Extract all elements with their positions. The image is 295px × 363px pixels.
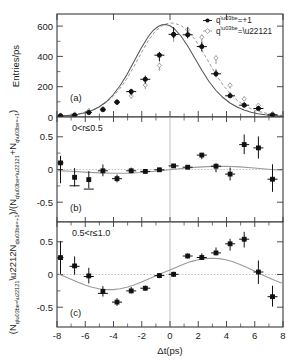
panel-c-ytick-pos: 0.5 — [40, 236, 53, 247]
xtick-2: 2 — [196, 330, 201, 341]
panel-a-ylabel: Entries/ps — [10, 45, 21, 87]
panel-b-tag: (b) — [70, 202, 82, 213]
xtick--8: -8 — [53, 330, 61, 341]
xtick--6: -6 — [81, 330, 89, 341]
panel-c-tag: (c) — [70, 307, 81, 318]
panel-c-ytick-zero: 0 — [48, 269, 53, 280]
xtick-6: 6 — [252, 330, 257, 341]
panel-c-range-label: 0.5<r≤1.0 — [72, 228, 110, 238]
x-axis-title: Δt(ps) — [157, 345, 182, 356]
panel-a-tag: (a) — [70, 92, 82, 103]
panel-b-ytick-zero: 0 — [48, 164, 53, 175]
x-axis-labels: -8 -6 -4 -2 0 2 4 6 8 Δt(ps) — [53, 330, 286, 356]
panel-a-ytick-400: 400 — [37, 51, 53, 62]
panel-b-ytick-pos: 0.5 — [40, 131, 53, 142]
svg-text:(Nq\u03be=\u22121\u2212Nq\u03b: (Nq\u03be=\u22121\u2212Nq\u03be=+1)/(Nq\… — [7, 110, 20, 335]
panel-a-ytick-200: 200 — [37, 81, 53, 92]
xtick-0: 0 — [167, 330, 172, 341]
panel-b-ytick-neg: -0.5 — [37, 197, 53, 208]
xtick-8: 8 — [280, 330, 285, 341]
cp-asymmetry-figure: 0 200 400 600 — [0, 0, 295, 363]
panel-a-ytick-600: 600 — [37, 21, 53, 32]
xtick--2: -2 — [138, 330, 146, 341]
panel-b: 0.5 0 -0.5 — [37, 117, 283, 222]
xtick-4: 4 — [224, 330, 229, 341]
panel-c-ytick-neg: -0.5 — [37, 302, 53, 313]
panel-c: 0.5 0 -0.5 — [37, 222, 283, 327]
panel-a: 0 200 400 600 — [10, 14, 283, 123]
panel-b-range-label: 0<r≤0.5 — [72, 123, 103, 133]
legend-marker-filled-circle — [205, 18, 209, 22]
asymmetry-ylabel: (Nq\u03be=\u22121\u2212Nq\u03be=+1)/(Nq\… — [7, 110, 20, 335]
panel-a-ytick-0: 0 — [48, 112, 53, 123]
xtick--4: -4 — [109, 330, 117, 341]
